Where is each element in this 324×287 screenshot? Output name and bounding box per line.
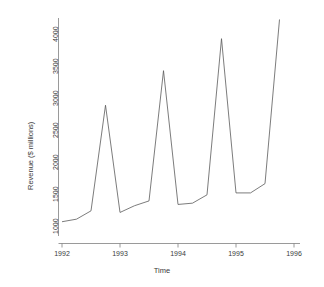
chart-container: 1000150020002500300035004000 19921993199… [0, 0, 324, 287]
y-tick-label: 1000 [52, 218, 59, 234]
x-tick-label: 1992 [48, 250, 76, 257]
y-tick-label: 2500 [52, 122, 59, 138]
y-tick-label: 3000 [52, 90, 59, 106]
x-tick-label: 1993 [106, 250, 134, 257]
y-tick-label: 2000 [52, 154, 59, 170]
chart-canvas [0, 0, 324, 287]
x-axis-title: Time [0, 266, 324, 275]
revenue-series-line [62, 19, 280, 221]
x-tick-label: 1995 [222, 250, 250, 257]
y-tick-label: 3500 [52, 58, 59, 74]
y-tick-label: 1500 [52, 186, 59, 202]
x-tick-label: 1996 [280, 250, 308, 257]
y-tick-label: 4000 [52, 26, 59, 42]
data-series [62, 19, 280, 221]
x-tick-label: 1994 [164, 250, 192, 257]
x-axis [59, 244, 301, 248]
y-axis-title: Revenue ($ millions) [26, 122, 35, 190]
